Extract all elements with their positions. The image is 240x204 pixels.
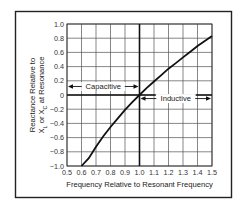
- y-axis-title: Reactance Relative to XL or XC at Resona…: [28, 56, 48, 133]
- x-tick-label: 0.8: [106, 168, 116, 177]
- region-label-capacitive: Capacitive: [86, 82, 121, 91]
- x-tick-label: 0.6: [77, 168, 87, 177]
- y-tick-label: 0.2: [54, 76, 64, 85]
- x-axis-title: Frequency Relative to Resonant Frequency: [66, 180, 213, 189]
- x-axis-ticks: 0.50.60.70.80.91.01.11.21.31.41.5: [62, 168, 217, 177]
- y-tick-label: −0.2: [50, 105, 64, 114]
- y-tick-label: −0.6: [50, 133, 64, 142]
- x-tick-label: 1.1: [149, 168, 159, 177]
- y-tick-label: 0.6: [54, 48, 64, 57]
- x-tick-label: 0.5: [62, 168, 72, 177]
- region-label-inductive: Inductive: [161, 94, 191, 103]
- y-axis-title-line1: Reactance Relative to: [28, 58, 37, 132]
- x-tick-label: 1.3: [178, 168, 188, 177]
- y-tick-label: 0.4: [54, 62, 64, 71]
- x-tick-label: 1.5: [207, 168, 217, 177]
- y-tick-label: −0.4: [50, 119, 64, 128]
- x-tick-label: 1.4: [193, 168, 203, 177]
- y-tick-label: −0.8: [50, 147, 64, 156]
- y-tick-label: 0: [60, 91, 64, 100]
- x-tick-label: 1.2: [164, 168, 174, 177]
- x-tick-label: 1.0: [135, 168, 145, 177]
- x-tick-label: 0.9: [120, 168, 130, 177]
- y-tick-label: 0.8: [54, 34, 64, 43]
- x-tick-label: 0.7: [91, 168, 101, 177]
- chart: 1.00.80.60.40.20−0.2−0.4−0.6−0.8−1.0 0.5…: [0, 0, 240, 204]
- y-tick-label: 1.0: [54, 20, 64, 29]
